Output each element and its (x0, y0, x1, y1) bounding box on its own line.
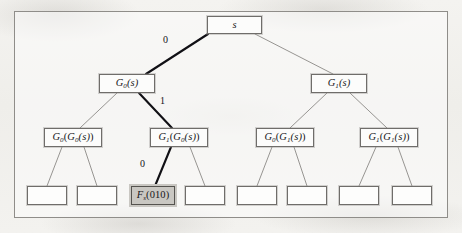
path-edge-root-g0 (146, 34, 208, 74)
edge-g1g1-leaf7 (398, 147, 412, 186)
edge-label-0-root: 0 (163, 34, 168, 45)
node-root[interactable]: s (207, 16, 262, 34)
leaf-node-6[interactable] (339, 186, 379, 205)
node-g1-s-label: G1(s) (328, 78, 351, 90)
node-g1-g1-s-label: G1(G1(s)) (368, 132, 409, 144)
leaf-node-4[interactable] (237, 186, 277, 205)
leaf-node-5[interactable] (287, 186, 327, 205)
path-edge-g0-g1g0 (139, 93, 172, 128)
node-g1-g1-s[interactable]: G1(G1(s)) (360, 128, 418, 147)
node-g0-g0-s-label: G0(G0(s)) (52, 132, 93, 144)
node-root-label: s (232, 20, 236, 31)
edge-g0-g0g0 (80, 93, 117, 128)
node-g0-s-label: G0(s) (116, 78, 139, 90)
leaf-node-2-label: Fs(010) (137, 190, 170, 202)
leaf-node-3[interactable] (185, 186, 225, 205)
edge-g1g0-leaf3 (190, 147, 205, 186)
edge-g0g1-leaf4 (257, 147, 272, 186)
node-g1-g0-s[interactable]: G1(G0(s)) (150, 128, 208, 147)
edge-root-g1 (255, 34, 333, 74)
node-g0-g1-s-label: G0(G1(s)) (264, 132, 305, 144)
leaf-node-0[interactable] (27, 186, 67, 205)
leaf-node-1[interactable] (77, 186, 117, 205)
edge-g0g0-leaf1 (84, 147, 97, 186)
node-g0-g1-s[interactable]: G0(G1(s)) (256, 128, 314, 147)
edge-g0g1-leaf5 (294, 147, 307, 186)
leaf-node-7[interactable] (392, 186, 432, 205)
leaf-node-2-highlighted[interactable]: Fs(010) (131, 186, 175, 205)
edge-g1-g0g1 (290, 93, 327, 128)
edge-g1g1-leaf6 (359, 147, 376, 186)
edge-label-1-g0: 1 (160, 95, 165, 106)
edge-g1-g1g1 (350, 93, 387, 128)
node-g1-g0-s-label: G1(G0(s)) (158, 132, 199, 144)
node-g0-g0-s[interactable]: G0(G0(s)) (44, 128, 102, 147)
node-g1-s[interactable]: G1(s) (311, 74, 367, 93)
edge-g0g0-leaf0 (47, 147, 62, 186)
edge-label-0-g1g0: 0 (140, 158, 145, 169)
path-edge-g1g0-leaf (155, 147, 171, 186)
node-g0-s[interactable]: G0(s) (99, 74, 155, 93)
